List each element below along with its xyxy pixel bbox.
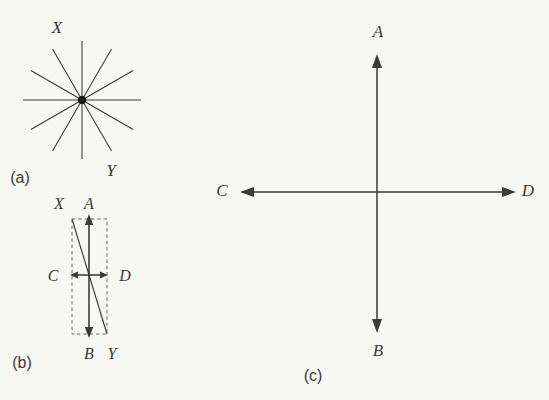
- panel-b-label-c: C: [48, 267, 59, 284]
- panel-c-caption: (c): [304, 367, 323, 384]
- panel-c-cross-axes: A B C D (c): [216, 22, 535, 384]
- starburst-ray-4: [53, 49, 83, 100]
- panel-c-label-d: D: [521, 181, 535, 200]
- arrowhead-b: [85, 327, 93, 338]
- starburst-ray-5: [31, 71, 82, 101]
- starburst-ray-8: [53, 100, 83, 151]
- panel-b-label-x: X: [53, 195, 65, 212]
- starburst-ray-10: [82, 100, 112, 151]
- panel-a-caption: (a): [10, 169, 30, 186]
- panel-a-label-x: X: [51, 18, 63, 37]
- panel-b-label-b: B: [84, 345, 94, 362]
- figure-canvas: X Y (a) X A C D B Y (b): [0, 0, 549, 400]
- arrowhead-b: [372, 319, 382, 333]
- panel-b-label-a: A: [83, 195, 94, 212]
- figure-root: X Y (a) X A C D B Y (b): [0, 0, 549, 400]
- arrowhead-c: [70, 271, 78, 278]
- panel-a-label-y: Y: [106, 161, 117, 180]
- starburst-ray-11: [82, 100, 133, 130]
- starburst-center-dot: [78, 96, 86, 104]
- starburst-ray-2: [82, 49, 112, 100]
- panel-b-label-y: Y: [108, 345, 119, 362]
- panel-b-vector-resolution: X A C D B Y (b): [12, 195, 131, 372]
- panel-c-label-a: A: [372, 22, 384, 41]
- arrowhead-d: [502, 187, 516, 197]
- panel-b-label-d: D: [118, 267, 131, 284]
- starburst-ray-1: [82, 71, 133, 101]
- arrowhead-c: [240, 187, 254, 197]
- panel-a-starburst: X Y (a): [10, 18, 141, 186]
- arrowhead-a: [372, 54, 382, 68]
- panel-c-label-b: B: [373, 341, 384, 360]
- panel-b-caption: (b): [12, 354, 32, 371]
- panel-c-label-c: C: [216, 181, 228, 200]
- starburst-ray-7: [31, 100, 82, 130]
